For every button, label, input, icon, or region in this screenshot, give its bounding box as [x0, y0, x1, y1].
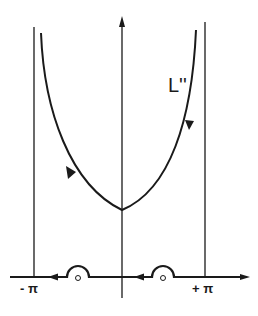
axis-left-arrow-icon-1 — [48, 274, 58, 281]
minus-pi-label: - π — [20, 281, 38, 296]
contour-diagram: L'' - π + π — [0, 0, 258, 316]
horizontal-axis-arrow-icon — [240, 274, 250, 280]
curve-label: L'' — [168, 74, 187, 96]
contour-arrow-up-icon — [66, 166, 76, 179]
horizontal-axis — [10, 266, 244, 277]
vertical-axis-arrow-icon — [119, 16, 125, 27]
axis-left-arrow-icon-2 — [134, 274, 144, 281]
pole-left-icon — [76, 276, 81, 281]
contour-curve — [41, 30, 196, 210]
pole-right-icon — [161, 276, 166, 281]
plus-pi-label: + π — [192, 281, 213, 296]
contour-arrow-down-icon — [185, 120, 194, 130]
